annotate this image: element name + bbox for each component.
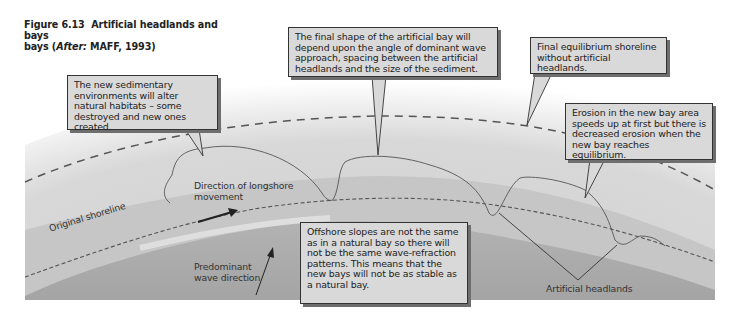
label-headlands: Artificial headlands xyxy=(546,284,656,295)
callout-offshore: Offshore slopes are not the same as in a… xyxy=(300,222,468,304)
label-longshore: Direction of longshore movement xyxy=(194,181,304,202)
callout-offshore-text: Offshore slopes are not the same as in a… xyxy=(307,226,458,290)
callout-equilibrium-text: Final equilibrium shoreline without arti… xyxy=(537,41,656,73)
callout-habitats-text: The new sedimentary environments will al… xyxy=(74,79,186,132)
callout-equilibrium: Final equilibrium shoreline without arti… xyxy=(530,37,667,74)
callout-erosion-text: Erosion in the new bay area speeds up at… xyxy=(572,107,706,160)
callout-final-shape: The final shape of the artificial bay wi… xyxy=(288,27,498,77)
callout-erosion: Erosion in the new bay area speeds up at… xyxy=(565,103,713,160)
label-wave-direction: Predominant wave direction xyxy=(194,262,264,283)
callout-habitats: The new sedimentary environments will al… xyxy=(67,75,218,130)
callout-final-shape-text: The final shape of the artificial bay wi… xyxy=(295,31,486,74)
